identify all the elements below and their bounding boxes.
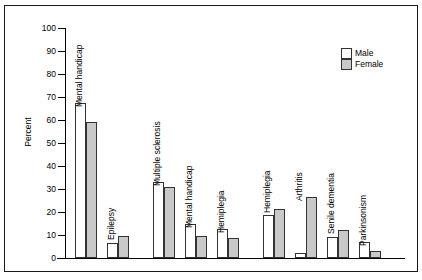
- y-axis-tick: [58, 51, 65, 52]
- bar-female: [274, 209, 285, 258]
- y-axis-tick-label: 100: [42, 24, 56, 33]
- legend-swatch-female: [341, 59, 352, 70]
- y-axis-tick: [58, 212, 65, 213]
- category-label: Mental handicap: [75, 44, 84, 106]
- y-axis-tick-label: 20: [47, 208, 56, 217]
- legend-label: Male: [355, 48, 373, 59]
- bar-female: [306, 197, 317, 258]
- y-axis-tick-label: 30: [47, 185, 56, 194]
- y-axis-tick: [58, 74, 65, 75]
- bar-male: [327, 237, 338, 258]
- y-axis-tick: [58, 28, 65, 29]
- bar-female: [338, 230, 349, 258]
- y-axis-tick-label: 60: [47, 116, 56, 125]
- plot-area: 1009080706050403020100 Mental handicapEp…: [65, 28, 405, 258]
- category-label: Hemiplegia: [217, 191, 226, 234]
- y-axis-tick: [58, 189, 65, 190]
- category-label: Mental handicap: [185, 165, 194, 227]
- category-label: Senile dementia: [327, 173, 336, 234]
- figure: Percent 1009080706050403020100 Mental ha…: [0, 0, 422, 280]
- y-axis-tick-label: 40: [47, 162, 56, 171]
- bar-female: [228, 238, 239, 258]
- y-axis-tick: [58, 258, 65, 259]
- y-axis-tick: [58, 235, 65, 236]
- bar-male: [295, 253, 306, 258]
- bar-male: [185, 224, 196, 259]
- chart-frame: Percent 1009080706050403020100 Mental ha…: [4, 5, 418, 272]
- category-label: Parkinsonism: [359, 195, 368, 246]
- bar-female: [118, 236, 129, 258]
- bar-female: [164, 187, 175, 258]
- bar-female: [370, 251, 381, 258]
- bar-female: [196, 236, 207, 258]
- category-label: Hemiplegia: [263, 170, 272, 213]
- bar-female: [86, 122, 97, 258]
- bar-male: [263, 215, 274, 258]
- legend-label: Female: [355, 59, 383, 70]
- y-axis-tick-label: 70: [47, 93, 56, 102]
- y-axis-tick: [58, 97, 65, 98]
- y-axis-tick-label: 0: [51, 254, 56, 263]
- bar-male: [153, 182, 164, 258]
- y-axis-tick: [58, 143, 65, 144]
- bar-male: [107, 243, 118, 258]
- y-axis-tick: [58, 166, 65, 167]
- y-axis-tick-label: 80: [47, 70, 56, 79]
- category-label: Epilepsy: [107, 208, 116, 240]
- y-axis-label: Percent: [23, 117, 33, 146]
- category-label: Multiple sclerosis: [153, 121, 162, 186]
- legend-swatch-male: [341, 48, 352, 59]
- y-axis-tick-label: 50: [47, 139, 56, 148]
- y-axis-tick-label: 10: [47, 231, 56, 240]
- bar-male: [217, 229, 228, 258]
- bar-male: [75, 103, 86, 258]
- x-axis-line: [57, 258, 405, 259]
- category-label: Arthritis: [295, 172, 304, 201]
- y-axis-tick-label: 90: [47, 47, 56, 56]
- y-axis-tick: [58, 120, 65, 121]
